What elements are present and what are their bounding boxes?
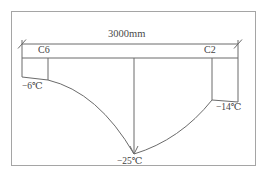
right-temperature-curve — [134, 100, 212, 154]
node-label-c6: C6 — [38, 45, 50, 55]
node-label-c2: C2 — [204, 45, 216, 55]
dimension-label: 3000mm — [108, 29, 145, 40]
temperature-label-left: −6℃ — [22, 82, 43, 92]
left-temperature-curve — [48, 80, 134, 154]
left-base-segment — [22, 77, 48, 80]
temperature-diagram: 3000mm C6 C2 −6℃ −14℃ −25℃ — [0, 0, 267, 177]
temperature-label-right: −14℃ — [216, 103, 242, 113]
temperature-label-center: −25℃ — [117, 157, 143, 167]
